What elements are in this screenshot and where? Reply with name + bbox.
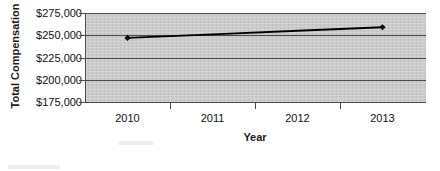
- gridline: [86, 80, 426, 81]
- y-axis-tick-label: $250,000: [18, 29, 82, 41]
- x-axis-tick-mark: [255, 103, 256, 109]
- y-axis-tick-label: $175,000: [18, 96, 82, 108]
- y-axis-tick-mark: [79, 13, 85, 14]
- y-axis-tick-mark: [79, 58, 85, 59]
- x-axis-tick-label: 2010: [88, 112, 168, 124]
- y-axis-line: [85, 13, 86, 103]
- gridline: [86, 58, 426, 59]
- gridline: [86, 35, 426, 36]
- y-axis-tick-mark: [79, 35, 85, 36]
- y-axis-tick-label: $275,000: [18, 7, 82, 19]
- y-axis-tick-labels: $175,000$200,000$225,000$250,000$275,000: [18, 0, 82, 171]
- y-axis-tick-label: $200,000: [18, 74, 82, 86]
- y-axis-tick-label: $225,000: [18, 52, 82, 64]
- gridline: [86, 13, 426, 14]
- x-axis-tick-label: 2013: [343, 112, 423, 124]
- compensation-line-chart: Total Compensation $175,000$200,000$225,…: [0, 0, 440, 171]
- y-axis-tick-mark: [79, 102, 85, 103]
- x-axis-tick-label: 2011: [173, 112, 253, 124]
- scan-artifact: [118, 141, 154, 145]
- x-axis-tick-mark: [340, 103, 341, 109]
- scan-artifact: [8, 165, 60, 169]
- plot-area: [85, 13, 426, 102]
- x-axis-tick-mark: [170, 103, 171, 109]
- y-axis-tick-mark: [79, 80, 85, 81]
- x-axis-tick-label: 2012: [258, 112, 338, 124]
